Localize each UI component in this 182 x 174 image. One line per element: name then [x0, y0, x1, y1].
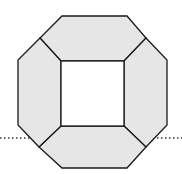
left-panel — [18, 38, 61, 147]
right-panel — [124, 38, 167, 147]
square-opening — [61, 61, 124, 126]
octagon-frame-diagram — [0, 0, 182, 174]
diagram-canvas — [0, 0, 182, 174]
